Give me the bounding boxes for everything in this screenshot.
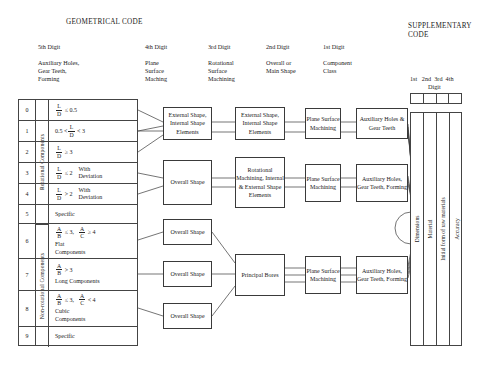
table-row[interactable]: 6 AB ≤ 3, AC ≥ 4 Flat Components	[19, 224, 137, 259]
row-operator: ≤	[65, 296, 68, 304]
row-content: LD > 2 With Deviation	[49, 184, 137, 204]
row-digit: 8	[19, 291, 36, 326]
process-box-3rd-digit-row1[interactable]: External Shape, Internal Shape Elements	[235, 107, 285, 140]
row-content: Specific	[49, 327, 137, 345]
fraction-denominator: C	[79, 299, 85, 306]
table-row[interactable]: 3 LD ≤ 2 With Deviation	[19, 163, 137, 184]
fraction-denominator: D	[56, 152, 62, 159]
supplementary-column-material[interactable]: Material	[424, 113, 437, 345]
fraction-denominator: D	[56, 194, 62, 201]
supplementary-digit-word: Digit	[428, 83, 441, 91]
row-note: Flat Components	[55, 241, 137, 257]
digit-cell-3rd[interactable]	[437, 94, 450, 103]
table-row[interactable]: 9 Specific	[19, 327, 137, 345]
row-prefix: 0.5 <	[55, 127, 67, 135]
process-box-2nd-digit-row2[interactable]: Plane Surface Machining	[305, 164, 341, 202]
supplementary-column-label: Material	[427, 220, 433, 239]
process-box-1st-digit-row3[interactable]: Auxiliary Holes, Gear Teeth, Forming	[356, 256, 408, 294]
table-row[interactable]: 1 0.5 < LD < 3	[19, 121, 137, 142]
row-operator: ≥	[65, 148, 68, 156]
row-content: AB > 3 Long Components	[49, 259, 137, 290]
column-header-1st-digit: 1st Digit	[323, 43, 345, 51]
process-box-4th-digit-row5[interactable]: Overall Shape	[163, 303, 212, 329]
row-note: Long Components	[55, 278, 137, 285]
fraction-denominator: D	[56, 110, 62, 117]
process-box-4th-digit-row4[interactable]: Overall Shape	[163, 261, 212, 287]
row-content: LD ≤ 0.5	[49, 100, 137, 120]
column-subtitle-4th-digit: Plane Surface Maching	[145, 59, 167, 84]
supplementary-column-initial-form[interactable]: Initial form of raw materials	[437, 113, 450, 345]
row-value: 3,	[69, 296, 74, 304]
column-subtitle-5th-digit: Auxiliary Holes, Gear Teeth, Forming	[38, 59, 79, 84]
row-content: AB ≤ 3, AC ≥ 4 Flat Components	[49, 224, 137, 258]
supplementary-column-label: Dimensions	[414, 216, 420, 243]
row-operator: >	[65, 266, 68, 274]
process-box-2nd-digit-row3[interactable]: Plane Surface Machining	[305, 256, 341, 294]
digit-cell-2nd[interactable]	[424, 94, 437, 103]
supplementary-code-title: SUPPLEMENTARY CODE	[408, 22, 472, 40]
fraction-denominator: B	[56, 269, 62, 276]
row-operator: ≤	[65, 169, 68, 177]
row-value: 3	[69, 148, 72, 156]
row-digit: 4	[19, 184, 36, 204]
process-box-3rd-digit-row2[interactable]: Rotational Machining, Internal & Externa…	[235, 157, 285, 208]
row-extra: With Deviation	[78, 166, 102, 181]
supplementary-code-block: Dimensions Material Initial form of raw …	[410, 112, 462, 346]
table-row[interactable]: 5 Specific	[19, 205, 137, 224]
table-row[interactable]: 7 AB > 3 Long Components	[19, 259, 137, 291]
digit-cell-4th[interactable]	[449, 94, 461, 103]
process-box-1st-digit-row2[interactable]: Auxiliary Holes, Gear Teeth, Forming	[356, 164, 408, 202]
row-value: 4	[93, 296, 96, 304]
row-digit: 3	[19, 163, 36, 183]
row-operator: ≤	[65, 228, 68, 236]
row-operator: <	[88, 296, 91, 304]
diagram-canvas: GEOMETRICAL CODE SUPPLEMENTARY CODE 5th …	[0, 0, 479, 367]
fraction-denominator: D	[56, 173, 62, 180]
row-value: 3	[82, 127, 85, 135]
row-note: Cubic Components	[55, 308, 137, 324]
process-box-4th-digit-row1[interactable]: External Shape, Internal Shape Elements	[163, 107, 212, 140]
row-value: 3,	[69, 228, 74, 236]
row-digit: 5	[19, 205, 36, 223]
row-operator: >	[65, 190, 68, 198]
geometrical-code-title: GEOMETRICAL CODE	[66, 18, 143, 27]
row-content: AB ≤ 3, AC < 4 Cubic Components	[49, 291, 137, 326]
process-box-4th-digit-row2[interactable]: Overall Shape	[163, 160, 212, 205]
row-digit: 9	[19, 327, 36, 345]
row-value: 3	[70, 266, 73, 274]
column-header-2nd-digit: 2nd Digit	[266, 43, 290, 51]
table-row[interactable]: 2 LD ≥ 3	[19, 142, 137, 163]
row-operator: <	[77, 127, 80, 135]
row-value: 2	[69, 169, 72, 177]
table-row[interactable]: 8 AB ≤ 3, AC < 4 Cubic Components	[19, 291, 137, 327]
row-digit: 6	[19, 224, 36, 258]
table-row[interactable]: 0 LD ≤ 0.5	[19, 100, 137, 121]
supplementary-digit-boxes[interactable]	[410, 93, 462, 104]
row-content: LD ≥ 3	[49, 142, 137, 162]
column-header-5th-digit: 5th Digit	[38, 43, 60, 51]
row-value: 2	[70, 190, 73, 198]
digit-cell-1st[interactable]	[411, 94, 424, 103]
process-box-principal-bores[interactable]: Principal Bores	[235, 254, 285, 296]
process-box-1st-digit-row1[interactable]: Auxiliary Holes & Gear Teeth	[356, 108, 408, 139]
supplementary-digit-header: 1st 2nd 3rd 4th	[410, 75, 454, 83]
process-box-2nd-digit-row1[interactable]: Plane Surface Machining	[305, 108, 341, 139]
supplementary-column-dimensions[interactable]: Dimensions	[411, 113, 424, 345]
row-content: 0.5 < LD < 3	[49, 121, 137, 141]
row-value: 4	[92, 228, 95, 236]
fraction-denominator: C	[79, 232, 85, 239]
fraction-denominator: B	[56, 299, 62, 306]
row-extra: With Deviation	[79, 187, 103, 202]
supplementary-column-accuracy[interactable]: Accuracy	[450, 113, 463, 345]
column-subtitle-3rd-digit: Rotational Surface Machining	[208, 59, 235, 84]
row-value: 0.5	[69, 106, 77, 114]
process-box-4th-digit-row3[interactable]: Overall Shape	[163, 219, 212, 245]
column-header-3rd-digit: 3rd Digit	[208, 43, 231, 51]
supplementary-column-label: Accuracy	[454, 218, 460, 239]
row-operator: ≥	[88, 228, 91, 236]
table-row[interactable]: 4 LD > 2 With Deviation	[19, 184, 137, 205]
supplementary-column-label: Initial form of raw materials	[440, 197, 446, 260]
column-header-4th-digit: 4th Digit	[145, 43, 167, 51]
row-digit: 7	[19, 259, 36, 290]
row-content: LD ≤ 2 With Deviation	[49, 163, 137, 183]
